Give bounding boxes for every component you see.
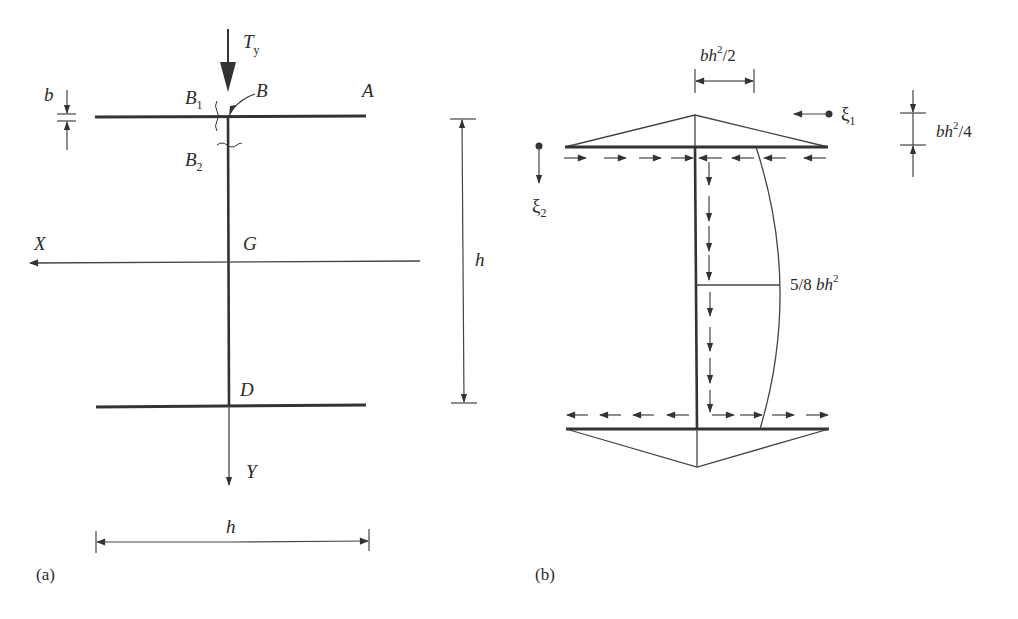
height-dimension: h — [450, 119, 485, 403]
panel-a-tag: (a) — [36, 565, 55, 584]
flange-peak-label: bh2/2 — [700, 43, 736, 65]
load-arrow-ty: Ty — [220, 29, 260, 92]
flange-width-label: h — [226, 516, 236, 537]
flange-width-dimension: h — [96, 516, 369, 553]
panel-b: 5/8 bh2 — [532, 43, 972, 584]
point-b1-label: B1 — [185, 87, 203, 112]
top-flange — [95, 116, 366, 117]
point-g-label: G — [243, 233, 257, 254]
point-b-leader — [232, 94, 255, 110]
thickness-label: b — [44, 84, 54, 105]
web-flow-arrows — [709, 162, 710, 412]
web-parabola — [756, 147, 780, 429]
xi1-label: ξ1 — [841, 103, 855, 128]
panel-b-tag: (b) — [535, 565, 555, 584]
point-b-label: B — [256, 80, 268, 101]
web-max-label: 5/8 bh2 — [790, 272, 838, 294]
bottom-flange — [96, 405, 366, 407]
cut-mark-b2 — [217, 143, 242, 147]
point-a-label: A — [360, 80, 374, 101]
panel-a: Ty A B B1 B2 G X D Y b — [30, 29, 485, 584]
top-flange-distribution — [565, 115, 828, 147]
load-label: Ty — [243, 31, 260, 57]
thickness-dimension: b — [44, 84, 76, 150]
xi2-label: ξ2 — [532, 195, 546, 220]
xi2-coordinate: ξ2 — [532, 143, 546, 221]
web-b — [695, 147, 697, 429]
height-label: h — [475, 249, 485, 270]
point-d-label: D — [239, 379, 254, 400]
point-b2-label: B2 — [185, 149, 203, 174]
x-axis-label: X — [33, 233, 47, 254]
xi1-coordinate: ξ1 — [794, 103, 855, 128]
y-axis-label: Y — [246, 461, 259, 482]
flange-offset-dimension: bh2/4 — [900, 90, 972, 177]
load-arrowhead-icon — [220, 62, 236, 92]
flange-peak-dimension: bh2/2 — [695, 43, 754, 93]
flange-offset-label: bh2/4 — [936, 119, 972, 141]
i-beam-figure: Ty A B B1 B2 G X D Y b — [0, 0, 1018, 619]
x-axis-arrow — [30, 261, 420, 263]
